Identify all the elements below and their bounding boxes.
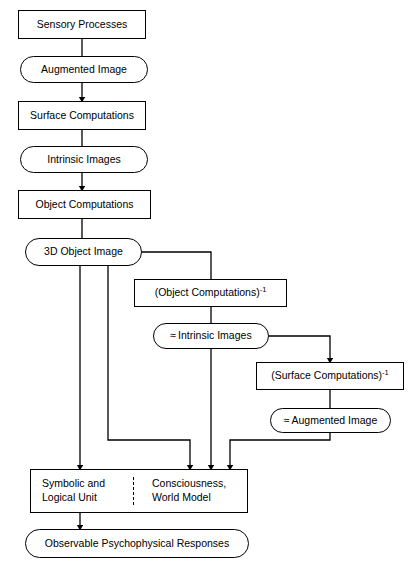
node-label-text: (Surface Computations) [271, 369, 382, 381]
split-node-inner: Symbolic and Logical Unit Consciousness,… [31, 470, 247, 512]
node-label: Surface Computations [24, 109, 140, 122]
node-label: Intrinsic Images [41, 153, 127, 166]
node-intrinsic-images[interactable]: Intrinsic Images [20, 146, 148, 173]
node-observable-psychophysical-responses[interactable]: Observable Psychophysical Responses [25, 529, 249, 558]
superscript-inverse: -1 [382, 368, 389, 377]
node-surface-computations[interactable]: Surface Computations [18, 101, 146, 130]
node-label-text: (Object Computations) [155, 286, 260, 298]
node-object-computations-inverse[interactable]: (Object Computations)-1 [134, 279, 287, 307]
node-approx-augmented-image[interactable]: ≈Augmented Image [270, 408, 391, 433]
dashed-divider [133, 477, 134, 505]
edge-approxaugmented-to-consciousness [230, 433, 330, 468]
node-label: 3D Object Image [38, 245, 129, 258]
edge-3d-to-objectcomp-inverse [142, 252, 211, 279]
node-label: Observable Psychophysical Responses [39, 537, 235, 550]
node-label-text: Augmented Image [291, 414, 377, 426]
node-3d-object-image[interactable]: 3D Object Image [25, 238, 142, 266]
edge-approxintrinsic-to-surfacecompinv [269, 336, 330, 361]
node-label: ≈Augmented Image [278, 414, 384, 427]
cell-symbolic-logical-unit[interactable]: Symbolic and Logical Unit [31, 470, 139, 512]
node-label: Augmented Image [35, 63, 133, 76]
flowchart-canvas: Sensory Processes Augmented Image Surfac… [0, 0, 413, 573]
node-label: Object Computations [29, 198, 139, 211]
approx-icon: ≈ [170, 329, 176, 341]
node-label: (Object Computations)-1 [149, 286, 273, 299]
node-object-computations[interactable]: Object Computations [18, 190, 151, 219]
node-label: (Surface Computations)-1 [265, 369, 395, 382]
cell-label: Consciousness, World Model [139, 477, 226, 504]
node-label: ≈Intrinsic Images [164, 329, 257, 342]
node-sensory-processes[interactable]: Sensory Processes [18, 10, 146, 39]
node-surface-computations-inverse[interactable]: (Surface Computations)-1 [256, 362, 404, 390]
node-label-text: Intrinsic Images [178, 329, 252, 341]
cell-label: Symbolic and Logical Unit [31, 477, 105, 504]
node-approx-intrinsic-images[interactable]: ≈Intrinsic Images [153, 323, 269, 349]
cell-consciousness-world-model[interactable]: Consciousness, World Model [139, 470, 247, 512]
superscript-inverse: -1 [260, 285, 267, 294]
node-label: Sensory Processes [31, 18, 133, 31]
node-augmented-image[interactable]: Augmented Image [20, 56, 148, 83]
approx-icon: ≈ [284, 414, 290, 426]
node-symbolic-consciousness[interactable]: Symbolic and Logical Unit Consciousness,… [30, 469, 248, 513]
